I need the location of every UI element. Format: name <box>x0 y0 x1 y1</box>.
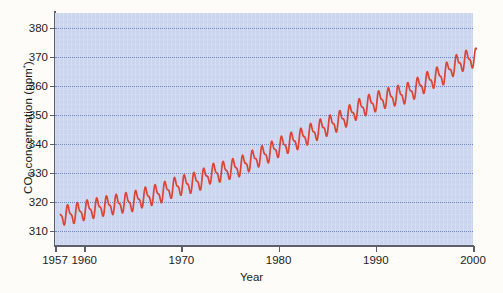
x-tick-label-1960: 1960 <box>71 254 97 266</box>
x-tick-label-1990: 1990 <box>363 254 389 266</box>
x-tick-label-1980: 1980 <box>266 254 292 266</box>
plot-frame <box>55 13 473 245</box>
x-axis-spine <box>54 245 474 247</box>
x-tick-label-2000: 2000 <box>460 254 486 266</box>
x-tick-mark-2000 <box>473 246 475 252</box>
x-tick-mark-1960 <box>84 246 86 252</box>
x-tick-label-1957: 1957 <box>42 254 68 266</box>
x-tick-mark-1980 <box>279 246 281 252</box>
y-tick-label-370: 370 <box>4 51 48 63</box>
x-tick-mark-1970 <box>181 246 183 252</box>
y-tick-label-310: 310 <box>4 225 48 237</box>
y-tick-label-330: 330 <box>4 167 48 179</box>
y-tick-label-350: 350 <box>4 109 48 121</box>
x-tick-mark-1957 <box>55 246 57 252</box>
y-axis-tick-labels: 310320330340350360370380 <box>0 0 48 293</box>
x-tick-label-1970: 1970 <box>169 254 195 266</box>
series-line-co2 <box>55 13 473 245</box>
x-axis-title: Year <box>0 271 503 283</box>
x-tick-mark-1990 <box>376 246 378 252</box>
y-tick-label-360: 360 <box>4 80 48 92</box>
y-tick-label-340: 340 <box>4 138 48 150</box>
chart-figure: CO2 concentration (ppm*) 310320330340350… <box>0 0 503 293</box>
y-tick-label-380: 380 <box>4 22 48 34</box>
y-tick-label-320: 320 <box>4 196 48 208</box>
